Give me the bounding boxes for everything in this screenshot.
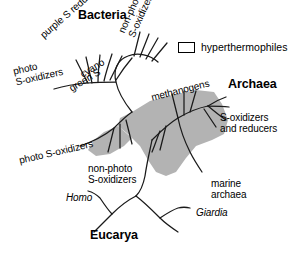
domain-title-archaea: Archaea bbox=[228, 77, 277, 91]
legend-label: hyperthermophiles bbox=[201, 41, 287, 53]
line-1: S-oxidizers bbox=[220, 112, 268, 123]
domain-title-eucarya: Eucarya bbox=[90, 228, 138, 242]
taxon-label-giardia: Giardia bbox=[196, 207, 228, 218]
line-1: marine bbox=[211, 178, 241, 189]
legend-swatch-icon bbox=[178, 42, 195, 53]
taxon-label-non-photo-s-oxidizers-lower: non-photo S-oxidizers bbox=[88, 163, 136, 185]
line-2: S-oxidizers bbox=[88, 174, 136, 185]
phylogenetic-tree-figure: Bacteria Archaea Eucarya hyperthermophil… bbox=[0, 0, 296, 255]
line-1: non-photo bbox=[88, 163, 132, 174]
taxon-label-homo: Homo bbox=[66, 192, 92, 203]
branch-giardia bbox=[160, 207, 190, 218]
legend-hyperthermophiles: hyperthermophiles bbox=[178, 41, 287, 53]
taxon-label-marine-archaea: marine archaea bbox=[211, 178, 246, 200]
branch-eucarya-right bbox=[136, 196, 178, 232]
line-2: archaea bbox=[211, 189, 246, 200]
taxon-label-s-oxidizers-and-reducers: S-oxidizers and reducers bbox=[220, 112, 277, 134]
branch-eucarya-left bbox=[94, 196, 136, 232]
line-2: and reducers bbox=[220, 123, 277, 134]
